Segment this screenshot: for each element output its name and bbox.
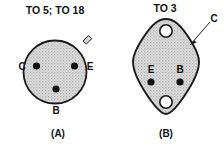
to5-pin-label-b: B <box>52 105 59 116</box>
to3-pin-dot-e <box>147 78 154 85</box>
figure-canvas: TO 5; TO 18 C E B (A) TO 3 <box>0 0 224 146</box>
to3-case-callout: C <box>190 13 218 45</box>
caption-b: (B) <box>159 128 173 139</box>
package-to5-to18: TO 5; TO 18 C E B (A) <box>18 4 93 139</box>
caption-a: (A) <box>51 128 65 139</box>
index-tab-icon <box>83 36 92 45</box>
to5-pin-dot-c <box>33 62 40 69</box>
to5-pin-dot-b <box>52 85 59 92</box>
package-to3: TO 3 E B C (B) <box>133 2 218 139</box>
to5-can-outline <box>24 41 87 104</box>
to3-mounting-hole-bottom <box>160 96 172 108</box>
to5-pin-dot-e <box>71 62 78 69</box>
to3-callout-label-c: C <box>210 13 217 24</box>
to3-mounting-hole-top <box>160 25 172 37</box>
transistor-package-figure: TO 5; TO 18 C E B (A) TO 3 <box>0 0 224 146</box>
package-header-to5-to18: TO 5; TO 18 <box>26 4 85 16</box>
to3-pin-dot-b <box>176 78 183 85</box>
to5-pin-label-e: E <box>87 61 94 72</box>
to5-pin-label-c: C <box>18 61 25 72</box>
package-header-to3: TO 3 <box>153 2 176 14</box>
to3-pin-label-e: E <box>148 64 155 75</box>
to3-pin-label-b: B <box>176 64 183 75</box>
